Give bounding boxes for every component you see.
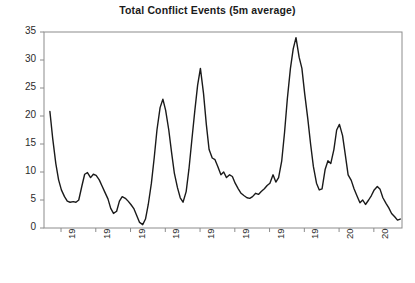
plot-frame bbox=[44, 32, 402, 228]
y-axis-ticks bbox=[40, 32, 44, 228]
x-axis-ticks bbox=[61, 228, 374, 232]
plot-area bbox=[0, 0, 415, 283]
chart-container: Total Conflict Events (5m average) 05101… bbox=[0, 0, 415, 283]
